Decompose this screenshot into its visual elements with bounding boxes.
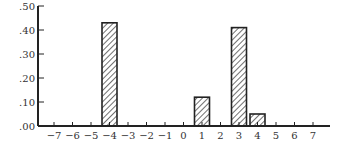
y-tick-label: .30 — [19, 49, 35, 60]
x-tick-label: 1 — [199, 130, 205, 141]
x-tick-label: −3 — [121, 130, 136, 141]
y-tick-label: .10 — [19, 97, 35, 108]
x-tick-label: 6 — [291, 130, 297, 141]
bar — [195, 97, 210, 126]
x-tick-label: 5 — [273, 130, 279, 141]
x-tick-label: 3 — [236, 130, 242, 141]
x-tick-label: 7 — [310, 130, 316, 141]
y-tick-label: .20 — [19, 73, 35, 84]
y-tick-label: .00 — [19, 121, 35, 132]
y-tick-label: .50 — [19, 1, 35, 12]
bar — [102, 23, 117, 126]
x-tick-label: 4 — [254, 130, 260, 141]
y-tick-label: .40 — [19, 25, 35, 36]
x-tick-label: −4 — [102, 130, 117, 141]
bar-chart: .00.10.20.30.40.50 −7−6−5−4−3−2−10123456… — [0, 0, 350, 150]
x-tick-label: −5 — [84, 130, 99, 141]
x-tick-label: 0 — [180, 130, 186, 141]
bar — [232, 28, 247, 126]
x-tick-label: −2 — [139, 130, 154, 141]
x-tick-label: −1 — [158, 130, 173, 141]
x-tick-label: −6 — [65, 130, 80, 141]
x-tick-label: −7 — [47, 130, 62, 141]
x-tick-label: 2 — [217, 130, 223, 141]
